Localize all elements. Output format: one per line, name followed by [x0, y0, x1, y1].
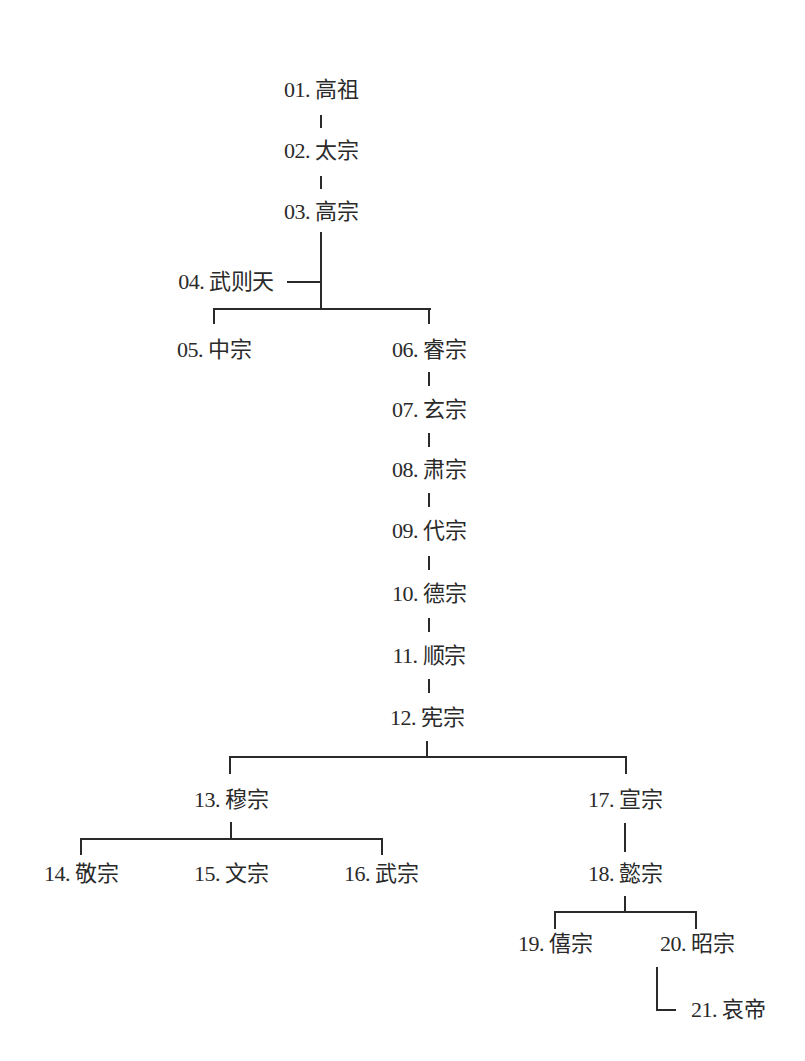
node-name: 哀帝: [722, 997, 765, 1022]
node-number: 16.: [344, 861, 370, 886]
connector-vertical: [428, 618, 430, 632]
connector-horizontal: [656, 1009, 676, 1011]
connector-vertical: [554, 911, 556, 929]
node-name: 宪宗: [421, 705, 464, 730]
connector-horizontal: [287, 281, 322, 283]
node-number: 13.: [194, 787, 220, 812]
node-number: 14.: [44, 861, 70, 886]
node-number: 20.: [660, 931, 686, 956]
node-name: 僖宗: [549, 931, 592, 956]
connector-vertical: [229, 756, 231, 774]
connector-vertical: [80, 838, 82, 855]
node-number: 08.: [392, 457, 418, 482]
tree-node-07: 07.玄宗: [392, 396, 466, 424]
connector-vertical: [428, 433, 430, 447]
tree-node-01: 01.高祖: [284, 76, 358, 104]
node-name: 武宗: [375, 861, 418, 886]
connector-vertical: [230, 822, 232, 840]
tree-node-04: 04.武则天: [178, 268, 274, 296]
connector-horizontal: [229, 756, 627, 758]
node-name: 昭宗: [691, 931, 734, 956]
node-name: 太宗: [315, 138, 358, 163]
connector-vertical: [381, 838, 383, 855]
node-name: 代宗: [423, 518, 466, 543]
connector-vertical: [428, 308, 430, 324]
connector-vertical: [625, 756, 627, 774]
tree-node-05: 05.中宗: [177, 336, 251, 364]
connector-vertical: [213, 308, 215, 324]
tree-node-09: 09.代宗: [392, 517, 466, 545]
node-number: 17.: [588, 787, 614, 812]
node-number: 09.: [392, 518, 418, 543]
tree-node-15: 15.文宗: [194, 860, 268, 888]
node-name: 宣宗: [619, 787, 662, 812]
connector-vertical: [624, 896, 626, 912]
tree-node-17: 17.宣宗: [588, 786, 662, 814]
connector-horizontal: [213, 308, 431, 310]
node-number: 15.: [194, 861, 220, 886]
node-number: 05.: [177, 337, 203, 362]
node-number: 06.: [392, 337, 418, 362]
connector-vertical: [426, 741, 428, 758]
node-number: 03.: [284, 199, 310, 224]
connector-vertical: [428, 679, 430, 693]
connector-vertical: [428, 493, 430, 507]
connector-vertical: [656, 967, 658, 1011]
node-number: 04.: [178, 269, 204, 294]
tree-node-13: 13.穆宗: [194, 786, 268, 814]
tree-node-10: 10.德宗: [392, 580, 466, 608]
node-number: 11.: [392, 643, 417, 668]
node-name: 肃宗: [423, 457, 466, 482]
tree-node-19: 19.僖宗: [518, 930, 592, 958]
node-name: 玄宗: [423, 397, 466, 422]
node-name: 睿宗: [423, 337, 466, 362]
node-name: 文宗: [225, 861, 268, 886]
node-name: 穆宗: [225, 787, 268, 812]
tree-node-16: 16.武宗: [344, 860, 418, 888]
node-name: 高宗: [315, 199, 358, 224]
node-number: 21.: [691, 997, 717, 1022]
connector-vertical: [428, 372, 430, 386]
node-name: 高祖: [315, 77, 358, 102]
tree-node-02: 02.太宗: [284, 137, 358, 165]
connector-vertical: [428, 556, 430, 570]
node-name: 懿宗: [619, 861, 662, 886]
node-number: 19.: [518, 931, 544, 956]
node-number: 07.: [392, 397, 418, 422]
node-number: 18.: [588, 861, 614, 886]
node-number: 10.: [392, 581, 418, 606]
node-number: 01.: [284, 77, 310, 102]
connector-vertical: [320, 115, 322, 128]
tree-node-11: 11.顺宗: [392, 642, 465, 670]
connector-vertical: [695, 911, 697, 929]
genealogy-tree: 01.高祖02.太宗03.高宗04.武则天05.中宗06.睿宗07.玄宗08.肃…: [0, 0, 805, 1061]
node-name: 顺宗: [423, 643, 466, 668]
tree-node-14: 14.敬宗: [44, 860, 118, 888]
node-number: 02.: [284, 138, 310, 163]
node-name: 敬宗: [75, 861, 118, 886]
tree-node-03: 03.高宗: [284, 198, 358, 226]
connector-vertical: [320, 232, 322, 310]
node-name: 武则天: [209, 269, 274, 294]
connector-vertical: [320, 176, 322, 189]
tree-node-18: 18.懿宗: [588, 860, 662, 888]
connector-vertical: [624, 823, 626, 852]
tree-node-20: 20.昭宗: [660, 930, 734, 958]
node-name: 中宗: [208, 337, 251, 362]
tree-node-06: 06.睿宗: [392, 336, 466, 364]
node-number: 12.: [390, 705, 416, 730]
tree-node-21: 21.哀帝: [691, 996, 765, 1024]
tree-node-08: 08.肃宗: [392, 456, 466, 484]
tree-node-12: 12.宪宗: [390, 704, 464, 732]
node-name: 德宗: [423, 581, 466, 606]
